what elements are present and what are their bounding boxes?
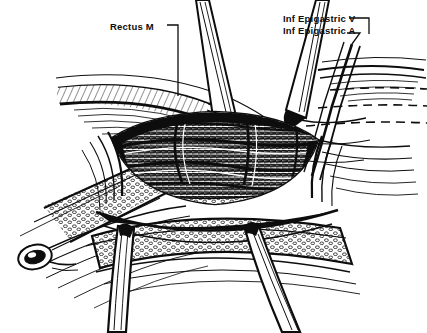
label-inferior-epigastric-artery: Inf Epigastric A — [283, 25, 356, 36]
surgical-illustration — [0, 0, 427, 333]
leader-rectus — [167, 25, 178, 96]
label-inferior-epigastric-vein: Inf Epigastric V — [283, 13, 355, 24]
anatomical-figure: Rectus M Inf Epigastric V Inf Epigastric… — [0, 0, 427, 333]
label-rectus-muscle: Rectus M — [110, 21, 154, 32]
deep-tissue-right — [318, 140, 418, 195]
cut-vessel-stump — [16, 241, 78, 273]
reflected-fascial-flap-right — [318, 57, 426, 101]
vessel-course-dashed-middle — [318, 105, 427, 108]
